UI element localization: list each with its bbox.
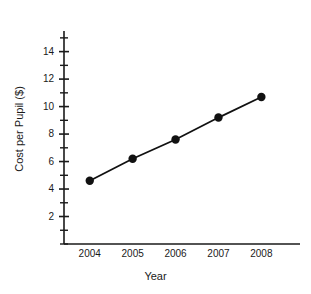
axes-group: [64, 31, 300, 244]
x-axis-tick-label: 2005: [113, 249, 153, 259]
y-axis-tick-label: 2: [30, 212, 54, 222]
y-axis-tick-label: 12: [30, 74, 54, 84]
x-axis-tick-label: 2008: [241, 249, 281, 259]
y-axis-tick-label: 14: [30, 47, 54, 57]
data-point-marker: 2006: 7.6: [171, 135, 179, 143]
chart-container: 2004: 4.62005: 6.22006: 7.62007: 9.22008…: [0, 0, 311, 294]
y-axis-tick-label: 10: [30, 102, 54, 112]
y-axis-tick-label: 8: [30, 129, 54, 139]
y-axis-tick-label: 4: [30, 184, 54, 194]
y-axis-tick-label: 6: [30, 157, 54, 167]
series-markers: 2004: 4.62005: 6.22006: 7.62007: 9.22008…: [86, 93, 266, 185]
x-axis-title: Year: [0, 270, 311, 282]
y-axis-title: Cost per Pupil ($): [13, 69, 25, 189]
x-axis-tick-label: 2004: [70, 249, 110, 259]
x-axis-tick-label: 2006: [156, 249, 196, 259]
data-point-marker: 2005: 6.2: [128, 155, 136, 163]
x-axis-tick-label: 2007: [198, 249, 238, 259]
data-point-marker: 2007: 9.2: [214, 113, 222, 121]
data-point-marker: 2008: 10.7: [257, 93, 265, 101]
data-point-marker: 2004: 4.6: [86, 177, 94, 185]
